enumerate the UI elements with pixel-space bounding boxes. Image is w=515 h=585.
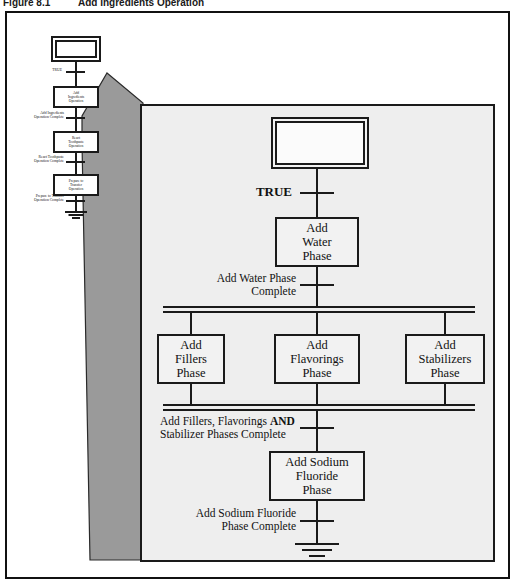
mini-transition-2-line2: Operation Complete bbox=[34, 115, 64, 119]
mini-link-4 bbox=[75, 196, 77, 212]
mini-step-prepare-transfer: Prepare to Transfer Operation bbox=[53, 174, 99, 196]
mini-step-react-toothpaste: React Toothpaste Operation bbox=[53, 131, 99, 153]
panel-terminator-ground-icon bbox=[294, 543, 340, 561]
panel-step-flavorings-line3: Phase bbox=[302, 366, 331, 380]
panel-fork-drop-right bbox=[444, 311, 446, 334]
mini-transition-label-3: React Toothpaste Operation Complete bbox=[6, 155, 64, 164]
panel-join-rise-center bbox=[316, 384, 318, 406]
mini-start-state-inner bbox=[55, 40, 97, 58]
panel-start-state bbox=[271, 117, 369, 169]
panel-start-state-inner bbox=[275, 121, 365, 165]
panel-water-complete-line1: Add Water Phase bbox=[217, 272, 296, 284]
panel-transition-bar-parallel-complete bbox=[300, 427, 334, 429]
panel-transition-bar-water-complete bbox=[300, 284, 334, 286]
panel-step-flavorings-line2: Flavorings bbox=[290, 352, 343, 366]
panel-transition-bar-fluoride-complete bbox=[300, 520, 334, 522]
panel-water-complete-line2: Complete bbox=[251, 285, 296, 297]
panel-step-add-fillers-phase: Add Fillers Phase bbox=[157, 334, 225, 384]
panel-parallel-complete-line2: Stabilizer Phases Complete bbox=[160, 428, 286, 440]
panel-step-fillers-line1: Add bbox=[180, 338, 202, 352]
panel-fork-drop-center bbox=[316, 311, 318, 334]
mini-link-3 bbox=[75, 153, 77, 175]
panel-fluoride-complete-line2: Phase Complete bbox=[222, 520, 296, 532]
mini-transition-4-line2: Operation Complete bbox=[34, 198, 64, 202]
panel-step-stabilizers-line3: Phase bbox=[430, 366, 459, 380]
panel-step-add-stabilizers-phase: Add Stabilizers Phase bbox=[405, 334, 485, 384]
panel-true-text: TRUE bbox=[256, 184, 292, 199]
panel-step-water-line1: Add bbox=[306, 221, 328, 235]
mini-transition-bar-2 bbox=[66, 117, 85, 119]
detail-panel: TRUE Add Water Phase Add Water Phase Com… bbox=[140, 104, 495, 562]
mini-transition-label-4: Prepare to Transfer Operation Complete bbox=[2, 194, 64, 203]
mini-link-1 bbox=[75, 62, 77, 86]
panel-transition-label-fluoride-complete: Add Sodium Fluoride Phase Complete bbox=[160, 507, 296, 533]
panel-fork-drop-left bbox=[190, 311, 192, 334]
panel-join-rise-left bbox=[190, 384, 192, 406]
mini-step-2-line3: Operation bbox=[69, 144, 83, 148]
mini-transition-bar-4 bbox=[66, 200, 85, 202]
panel-fork-bar-top bbox=[163, 306, 475, 308]
panel-step-add-water-phase: Add Water Phase bbox=[275, 217, 359, 267]
panel-step-fluoride-line2: Fluoride bbox=[296, 469, 338, 483]
mini-step-add-ingredients: Add Ingredients Operation bbox=[53, 86, 99, 108]
mini-step-1-line3: Operation bbox=[69, 99, 83, 103]
panel-step-stabilizers-line2: Stabilizers bbox=[419, 352, 472, 366]
mini-step-3-line3: Operation bbox=[69, 187, 83, 191]
panel-step-fluoride-line1: Add Sodium bbox=[285, 455, 349, 469]
panel-link-4 bbox=[316, 501, 318, 545]
mini-link-2 bbox=[75, 108, 77, 132]
panel-link-3 bbox=[316, 409, 318, 451]
panel-step-add-flavorings-phase: Add Flavorings Phase bbox=[274, 334, 360, 384]
mini-start-state bbox=[51, 36, 101, 62]
panel-step-water-line3: Phase bbox=[302, 249, 331, 263]
panel-transition-bar-true bbox=[300, 192, 334, 194]
panel-step-fluoride-line3: Phase bbox=[302, 483, 331, 497]
mini-transition-bar-3 bbox=[66, 161, 85, 163]
panel-transition-label-parallel-complete: Add Fillers, Flavorings AND Stabilizer P… bbox=[160, 415, 304, 441]
panel-step-fillers-line2: Fillers bbox=[175, 352, 207, 366]
mini-diagram: TRUE Add Ingredients Operation Add Ingre… bbox=[0, 0, 160, 220]
panel-parallel-complete-line1a: Add Fillers, Flavorings bbox=[160, 415, 270, 427]
panel-fluoride-complete-line1: Add Sodium Fluoride bbox=[196, 507, 296, 519]
panel-transition-label-water-complete: Add Water Phase Complete bbox=[164, 272, 296, 298]
panel-link-2 bbox=[316, 267, 318, 308]
panel-step-water-line2: Water bbox=[302, 235, 332, 249]
panel-parallel-complete-and: AND bbox=[270, 415, 295, 427]
panel-join-rise-right bbox=[444, 384, 446, 406]
panel-step-fillers-line3: Phase bbox=[176, 366, 205, 380]
panel-transition-label-true: TRUE bbox=[204, 185, 292, 200]
mini-transition-bar-1 bbox=[66, 71, 85, 73]
mini-transition-3-line2: Operation Complete bbox=[34, 159, 64, 163]
mini-transition-label-1: TRUE bbox=[24, 68, 62, 72]
panel-fork-bar-bottom bbox=[163, 311, 475, 313]
panel-step-stabilizers-line1: Add bbox=[434, 338, 456, 352]
panel-step-flavorings-line1: Add bbox=[306, 338, 328, 352]
panel-join-bar-bottom bbox=[163, 409, 475, 411]
mini-transition-label-2: Add Ingredients Operation Complete bbox=[6, 111, 64, 120]
panel-step-add-sodium-fluoride-phase: Add Sodium Fluoride Phase bbox=[269, 451, 365, 501]
mini-terminator-ground-icon bbox=[62, 211, 89, 220]
panel-join-bar-top bbox=[163, 404, 475, 406]
